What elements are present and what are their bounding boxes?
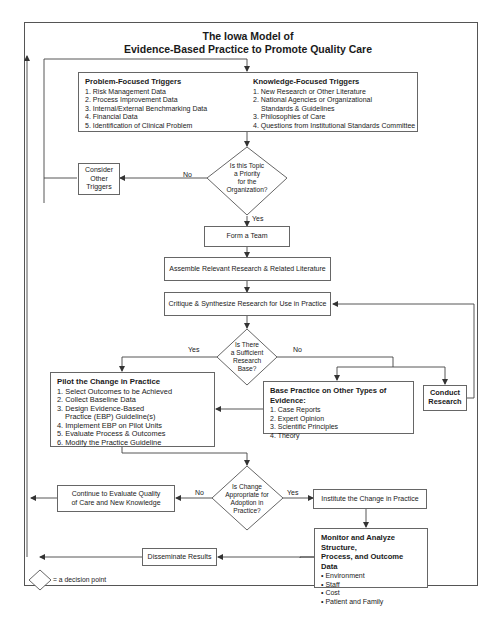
form-team-box: Form a Team: [204, 226, 290, 247]
disseminate-results-box: Disseminate Results: [142, 548, 217, 566]
list-item: 3. Internal/External Benchmarking Data: [85, 105, 241, 114]
list-item: • Patient and Family: [321, 598, 421, 607]
institute-change-box: Institute the Change in Practice: [313, 489, 427, 509]
step-text-line: Triggers: [85, 183, 113, 192]
problem-focused-triggers-box: Problem-Focused Triggers 1. Risk Managem…: [78, 72, 248, 132]
label-yes-adoption: Yes: [287, 489, 298, 497]
list-item: 4. Theory: [270, 432, 407, 441]
decision-text-line: Is Change: [210, 483, 284, 491]
knowledge-triggers-heading: Knowledge-Focused Triggers: [253, 77, 411, 87]
list-item: 1. Risk Management Data: [85, 88, 241, 97]
decision-priority-text: Is this Topic a Priority for the Organiz…: [207, 162, 287, 194]
list-item: 6. Modify the Practice Guideline: [57, 439, 208, 448]
monitor-heading-line-2: Process, and Outcome Data: [321, 552, 421, 571]
decision-research-base-text: Is There a Sufficient Research Base?: [217, 341, 277, 373]
label-no-priority: No: [183, 171, 192, 179]
list-item: 5. Identification of Clinical Problem: [85, 122, 241, 131]
pilot-change-box: Pilot the Change in Practice 1. Select O…: [50, 372, 215, 447]
problem-triggers-heading: Problem-Focused Triggers: [85, 77, 241, 87]
step-text-line: Continue to Evaluate Quality: [71, 490, 160, 499]
list-item: 1. New Research or Other Literature: [253, 88, 411, 97]
pilot-heading: Pilot the Change in Practice: [57, 377, 208, 387]
list-item: 2. National Agencies or Organizational: [253, 96, 411, 105]
list-item: • Cost: [321, 589, 421, 598]
decision-text-line: a Priority: [207, 170, 287, 178]
critique-synthesize-box: Critique & Synthesize Research for Use i…: [164, 292, 331, 316]
label-yes-priority: Yes: [252, 215, 263, 223]
list-item: Standards & Guidelines: [253, 105, 411, 114]
list-item: 2. Process Improvement Data: [85, 96, 241, 105]
decision-text-line: Practice?: [210, 507, 284, 515]
label-no-adoption: No: [195, 489, 204, 497]
list-item: 1. Case Reports: [270, 406, 407, 415]
legend-text: = a decision point: [53, 576, 106, 584]
base-practice-heading: Base Practice on Other Types of Evidence…: [270, 386, 407, 405]
decision-text-line: for the: [207, 178, 287, 186]
list-item: • Environment: [321, 572, 421, 581]
label-no-research: No: [293, 346, 302, 354]
continue-evaluate-box: Continue to Evaluate Quality of Care and…: [57, 485, 175, 512]
list-item: 3. Philosophies of Care: [253, 113, 411, 122]
legend-diamond: [29, 570, 51, 590]
assemble-research-box: Assemble Relevant Research & Related Lit…: [164, 257, 331, 281]
step-text-line: Research: [428, 398, 461, 407]
knowledge-focused-triggers-box: Knowledge-Focused Triggers 1. New Resear…: [247, 72, 418, 132]
decision-text-line: Is this Topic: [207, 162, 287, 170]
list-item: 4. Questions from Institutional Standard…: [253, 122, 411, 131]
step-text-line: Consider: [85, 166, 113, 175]
monitor-analyze-box: Monitor and Analyze Structure, Process, …: [314, 528, 428, 588]
list-item: • Staff: [321, 581, 421, 590]
decision-text-line: Research: [217, 357, 277, 365]
decision-text-line: Adoption in: [210, 499, 284, 507]
list-item: 2. Expert Opinion: [270, 415, 407, 424]
decision-text-line: Base?: [217, 365, 277, 373]
decision-text-line: Appropriate for: [210, 491, 284, 499]
consider-other-triggers-box: Consider Other Triggers: [78, 163, 120, 195]
base-practice-box: Base Practice on Other Types of Evidence…: [263, 381, 414, 434]
step-text-line: of Care and New Knowledge: [71, 499, 160, 508]
monitor-heading-line-1: Monitor and Analyze Structure,: [321, 533, 421, 552]
label-yes-research: Yes: [188, 346, 199, 354]
decision-text-line: a Sufficient: [217, 349, 277, 357]
step-text-line: Other: [85, 175, 113, 184]
decision-text-line: Organization?: [207, 186, 287, 194]
decision-text-line: Is There: [217, 341, 277, 349]
decision-adoption-text: Is Change Appropriate for Adoption in Pr…: [210, 483, 284, 515]
list-item: 3. Scientific Principles: [270, 423, 407, 432]
conduct-research-box: Conduct Research: [423, 385, 467, 411]
list-item: 4. Financial Data: [85, 113, 241, 122]
